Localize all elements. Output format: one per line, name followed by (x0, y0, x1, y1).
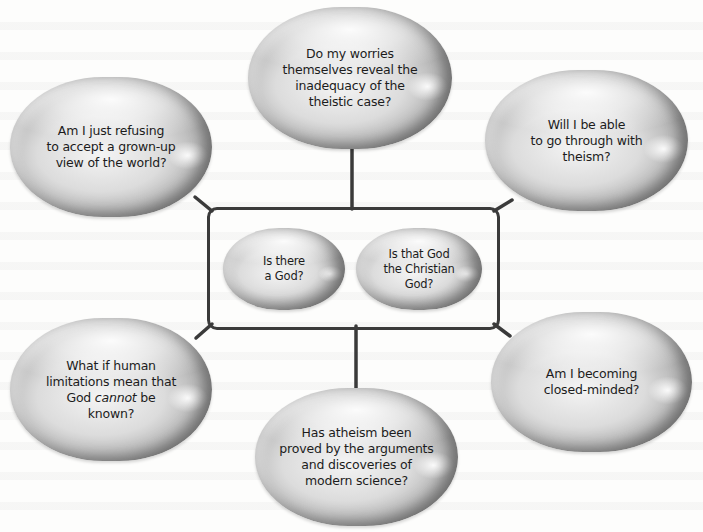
bubble-human-limitations: What if human limitations mean that God … (10, 318, 212, 461)
bubble-is-that-god-christian: Is that God the Christian God? (356, 228, 482, 310)
bubble-grown-up-view: Am I just refusing to accept a grown-up … (10, 77, 212, 217)
bubble-label: Am I becoming closed-minded? (544, 366, 640, 398)
bubble-label: What if human limitations mean that God … (46, 358, 176, 422)
bubble-is-there-a-god: Is there a God? (223, 228, 345, 310)
bubble-label: Is there a God? (263, 254, 305, 284)
bubble-go-through-theism: Will I be able to go through with theism… (485, 70, 688, 211)
bubble-label: Will I be able to go through with theism… (530, 117, 642, 165)
emphasis-text: cannot (95, 390, 137, 405)
bubble-label: Has atheism been proved by the arguments… (279, 425, 433, 489)
bubble-worries-reveal: Do my worries themselves reveal the inad… (248, 7, 452, 149)
bubble-atheism-proved: Has atheism been proved by the arguments… (255, 388, 458, 526)
bubble-label: Am I just refusing to accept a grown-up … (46, 123, 175, 171)
bubble-closed-minded: Am I becoming closed-minded? (491, 312, 692, 452)
bubble-label: Is that God the Christian God? (383, 247, 454, 292)
bubble-label: Do my worries themselves reveal the inad… (282, 46, 417, 110)
